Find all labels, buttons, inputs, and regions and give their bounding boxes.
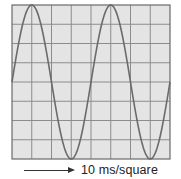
- time-scale-label: 10 ms/square: [81, 163, 158, 177]
- arrow-head-icon: [68, 167, 75, 173]
- time-scale-caption: 10 ms/square: [24, 162, 158, 178]
- oscilloscope-chart: [0, 0, 181, 179]
- right-arrow-icon: [24, 170, 68, 171]
